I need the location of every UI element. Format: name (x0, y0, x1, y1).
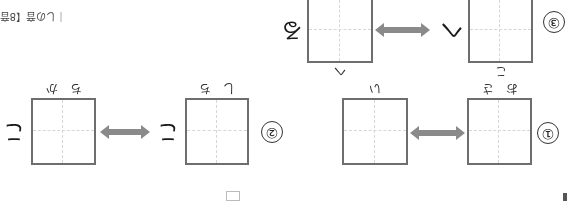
guide-line-horizontal (470, 30, 531, 31)
reading-3a: こ (483, 65, 507, 77)
guide-line-vertical (499, 100, 500, 163)
kana-2b: こ (3, 121, 25, 143)
problem-number-3: ③ (543, 11, 565, 33)
reading-2b: ちか (34, 82, 82, 94)
guide-line-horizontal (469, 131, 530, 132)
guide-line-vertical (374, 100, 375, 163)
guide-line-vertical (216, 100, 217, 163)
problem-number-1: ① (537, 122, 559, 144)
answer-box-3a[interactable] (468, 0, 533, 63)
guide-line-vertical (63, 100, 64, 163)
section-caption: ｜しの音【8音】 (0, 11, 66, 21)
reading-2a: しち (187, 82, 235, 94)
corner-mark (563, 193, 567, 201)
answer-box-3b[interactable] (307, 0, 373, 63)
kana-3b: る (281, 19, 303, 41)
small-answer-box (226, 191, 240, 201)
guide-line-vertical (500, 0, 501, 61)
problem-number-2: ② (261, 121, 283, 143)
double-arrow-icon (375, 23, 430, 37)
guide-line-horizontal (344, 131, 406, 132)
guide-line-horizontal (187, 131, 247, 132)
kana-2a: こ (157, 121, 179, 143)
guide-line-vertical (339, 0, 340, 61)
double-arrow-icon (100, 125, 150, 139)
answer-box-2a[interactable] (185, 98, 249, 165)
guide-line-horizontal (33, 131, 94, 132)
double-arrow-icon (410, 126, 465, 140)
answer-box-1a[interactable] (467, 98, 532, 165)
answer-box-2b[interactable] (31, 98, 96, 165)
cut-off-row (0, 187, 569, 201)
kana-3a: へ (441, 19, 463, 41)
answer-box-1b[interactable] (342, 98, 408, 165)
kanji-worksheet: ① おさ い ② しち こ ちか こ ｜しの音【8音】 ③ こ へ へ (0, 0, 569, 201)
guide-line-horizontal (309, 30, 371, 31)
reading-1a: おさ (470, 82, 518, 94)
reading-3b: へ (322, 65, 346, 77)
reading-1b: い (357, 82, 381, 94)
